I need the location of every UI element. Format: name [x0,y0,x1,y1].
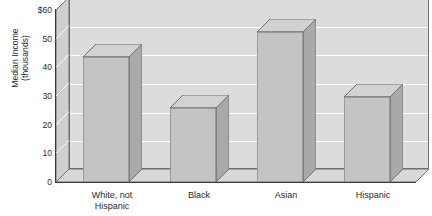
y-tick-10: 10 [43,149,52,158]
x-tick-label-white-not-hispanic: White, not Hispanic [62,190,162,212]
y-tick-50: 50 [43,35,52,44]
y-axis-line [55,9,56,183]
x-tick-label-asian: Asian [241,190,331,201]
x-tick-line1: Hispanic [328,190,418,201]
x-tick-line1: White, not [62,190,162,201]
x-tick-label-black: Black [154,190,244,201]
y-tick-60: $60 [38,6,52,15]
bar-hispanic[interactable] [344,84,403,182]
plot-area [0,0,432,216]
bar-white-not-hispanic[interactable] [83,44,142,182]
x-tick-line1: Black [154,190,244,201]
y-tick-30: 30 [43,92,52,101]
bar-asian[interactable] [257,19,316,182]
x-axis-tick-labels: White, not Hispanic Black Asian Hispanic [0,186,432,216]
x-axis-line [55,182,416,183]
x-tick-line1: Asian [241,190,331,201]
y-tick-20: 20 [43,121,52,130]
y-axis-tick-labels: $60 50 40 30 20 10 0 [26,0,52,216]
bar-black[interactable] [170,95,229,182]
y-tick-40: 40 [43,63,52,72]
bar-chart: Median Income (thousands) [0,0,432,216]
x-tick-line2: Hispanic [62,201,162,212]
x-tick-label-hispanic: Hispanic [328,190,418,201]
